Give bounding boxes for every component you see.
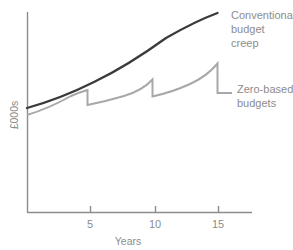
x-tick-label-5: 5 [87, 218, 93, 230]
x-axis-title: Years [115, 235, 141, 247]
conventional-label-line-2: budget [231, 23, 265, 35]
series-line-conventional-budget-creep [27, 13, 218, 108]
conventional-budget-creep-annotation: Conventional budget creep [231, 9, 293, 49]
x-axis-ticks [91, 206, 219, 212]
x-tick-label-15: 15 [212, 218, 224, 230]
conventional-label-line-3: creep [231, 37, 259, 49]
zero-based-label-line-1: Zero-based [237, 83, 293, 95]
zero-based-budgets-annotation: Zero-based budgets [237, 83, 293, 109]
line-chart: 5 10 15 Years £000s Conventional budget … [0, 0, 293, 250]
y-axis-title: £000s [8, 101, 20, 130]
chart-container: 5 10 15 Years £000s Conventional budget … [0, 0, 293, 250]
zero-based-label-line-2: budgets [237, 97, 277, 109]
chart-axes [27, 12, 252, 213]
series-line-zero-based-budgets [27, 64, 232, 116]
conventional-label-line-1: Conventional [231, 9, 293, 21]
x-tick-label-10: 10 [149, 218, 161, 230]
